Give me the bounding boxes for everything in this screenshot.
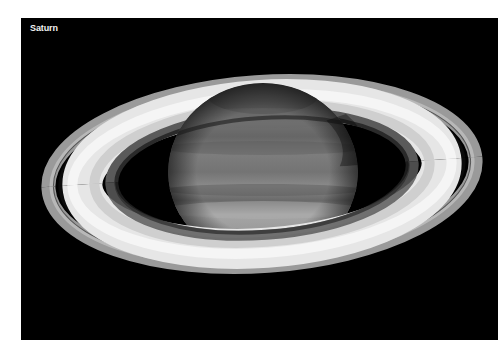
saturn-photo: Saturn xyxy=(21,18,498,340)
page: Saturn xyxy=(0,0,498,356)
saturn-illustration xyxy=(21,18,498,340)
photo-caption: Saturn xyxy=(30,23,58,33)
